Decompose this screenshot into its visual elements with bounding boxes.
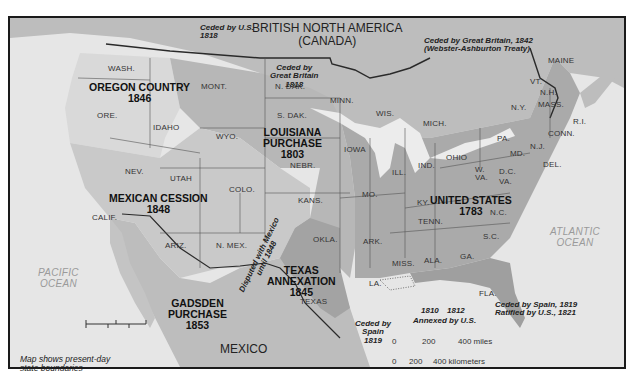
gadsden-purchase-label: GADSDEN PURCHASE1853 xyxy=(168,298,227,331)
ceded-by-us-1818-note: Ceded by U.S. 1818 xyxy=(200,24,254,41)
scale-miles-400: 400 miles xyxy=(458,338,492,346)
state-label-wis: WIS. xyxy=(376,110,394,118)
state-label-ga: GA. xyxy=(460,253,474,261)
scale-km-200: 200 xyxy=(409,358,422,366)
annexed-by-us-note: Annexed by U.S. xyxy=(413,317,476,325)
state-label-ndak: N. DAK. xyxy=(275,83,305,91)
annexed-1812-note: 1812 xyxy=(447,307,465,315)
scale-km-0: 0 xyxy=(392,358,396,366)
state-label-idaho: IDAHO xyxy=(153,124,179,132)
state-label-colo: COLO. xyxy=(229,186,255,194)
state-label-conn: CONN. xyxy=(548,130,575,138)
state-label-okla: OKLA. xyxy=(313,236,338,244)
state-label-ill: ILL. xyxy=(392,169,406,177)
ceded-by-gb-1842-note: Ceded by Great Britain, 1842 (Webster-As… xyxy=(424,37,533,54)
state-label-wash: WASH. xyxy=(108,65,135,73)
state-label-nebr: NEBR. xyxy=(290,162,315,170)
state-label-tenn: TENN. xyxy=(418,218,443,226)
scale-bar xyxy=(86,320,146,328)
state-label-nmex: N. MEX. xyxy=(216,242,247,250)
state-label-utah: UTAH xyxy=(170,175,192,183)
state-label-ore: ORE. xyxy=(97,112,117,120)
state-label-ri: R.I. xyxy=(573,118,586,126)
state-label-sdak: S. DAK. xyxy=(277,112,307,120)
state-label-nh: N.H. xyxy=(540,89,557,97)
ceded-by-spain-1819-note: Ceded by Spain 1819 xyxy=(355,320,391,345)
state-label-la: LA. xyxy=(369,280,382,288)
atlantic-ocean-label: ATLANTIC OCEAN xyxy=(550,227,600,248)
state-label-fla: FLA. xyxy=(479,290,497,298)
scale-miles-200: 200 xyxy=(422,338,435,346)
state-label-wva: W. VA. xyxy=(475,166,488,182)
state-label-miss: MISS. xyxy=(392,260,415,268)
state-label-mich: MICH. xyxy=(423,120,447,128)
state-label-texas: TEXAS xyxy=(300,298,327,306)
state-label-calif: CALIF. xyxy=(92,214,117,222)
state-label-kans: KANS. xyxy=(298,197,323,205)
canada-label: BRITISH NORTH AMERICA (CANADA) xyxy=(252,22,402,47)
state-label-ind: IND. xyxy=(418,162,435,170)
scale-km-400: 400 kilometers xyxy=(433,358,485,366)
oregon-country-label: OREGON COUNTRY1846 xyxy=(89,82,190,104)
state-label-nev: NEV. xyxy=(125,168,144,176)
state-label-dc: D.C. xyxy=(499,168,516,176)
state-label-ky: KY. xyxy=(417,199,429,207)
state-label-nj: N.J. xyxy=(530,143,545,151)
map-caption: Map shows present-day state boundaries xyxy=(20,355,110,374)
state-label-vt: VT. xyxy=(530,78,542,86)
texas-annexation-label: TEXAS ANNEXATION1845 xyxy=(267,265,336,298)
mexico-label: MEXICO xyxy=(220,343,267,356)
state-label-mo: MO. xyxy=(362,191,378,199)
state-label-pa: PA. xyxy=(497,135,510,143)
pacific-ocean-label: PACIFIC OCEAN xyxy=(38,268,79,289)
nova-scotia xyxy=(580,73,615,108)
state-label-maine: MAINE xyxy=(548,57,574,65)
state-label-nc: N.C. xyxy=(490,209,507,217)
florida-cession-note: Ceded by Spain, 1819 Ratified by U.S., 1… xyxy=(495,301,577,318)
state-label-del: DEL. xyxy=(543,161,562,169)
state-label-md: MD. xyxy=(510,150,525,158)
state-label-mass: MASS. xyxy=(538,101,564,109)
scale-miles-0: 0 xyxy=(392,338,396,346)
louisiana-purchase-label: LOUISIANA PURCHASE1803 xyxy=(263,127,322,160)
state-label-wyo: WYO. xyxy=(216,133,238,141)
state-label-ala: ALA. xyxy=(424,257,442,265)
state-label-mont: MONT. xyxy=(201,83,227,91)
mexican-cession-label: MEXICAN CESSION1848 xyxy=(109,193,208,215)
state-label-va: VA. xyxy=(499,178,512,186)
state-label-ny: N.Y. xyxy=(511,104,526,112)
west-florida-hatch xyxy=(380,276,415,290)
state-label-sc: S.C. xyxy=(483,233,499,241)
annexed-1810-note: 1810 xyxy=(421,307,439,315)
state-label-minn: MINN. xyxy=(330,97,354,105)
state-label-ark: ARK. xyxy=(363,238,382,246)
state-label-iowa: IOWA xyxy=(344,146,366,154)
state-label-ohio: OHIO xyxy=(446,154,467,162)
state-label-ariz: ARIZ. xyxy=(165,242,186,250)
